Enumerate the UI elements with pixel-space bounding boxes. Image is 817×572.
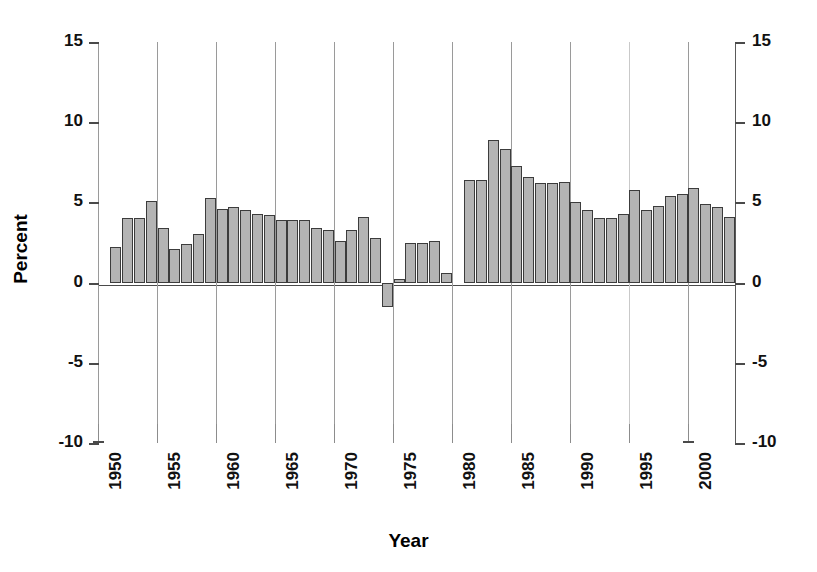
- y-tick-left--5: [89, 363, 99, 365]
- bar: [158, 228, 169, 283]
- bar: [594, 218, 605, 282]
- x-tick-label-1975: 1975: [401, 452, 421, 490]
- x-tick-label-1955: 1955: [165, 452, 185, 490]
- y-axis-right-line: [735, 42, 736, 443]
- bar: [146, 201, 157, 283]
- bar: [217, 209, 228, 283]
- bar: [535, 183, 546, 282]
- bar: [665, 196, 676, 283]
- y-tick-left--10: [89, 443, 99, 445]
- bar: [299, 220, 310, 283]
- bar: [358, 217, 369, 283]
- x-axis-title: Year: [0, 530, 817, 552]
- bar: [653, 206, 664, 283]
- bar: [511, 166, 522, 283]
- x-tick-1995: [629, 424, 630, 443]
- bar: [405, 243, 416, 283]
- bar: [559, 182, 570, 283]
- y-tick-right-5: [735, 202, 745, 204]
- bar: [370, 238, 381, 283]
- y-tick-label-right-10: 10: [752, 111, 812, 131]
- x-tick-label-1970: 1970: [342, 452, 362, 490]
- x-tick-label-1995: 1995: [637, 452, 657, 490]
- bar: [429, 241, 440, 283]
- bar: [287, 220, 298, 283]
- bar: [346, 230, 357, 283]
- bar: [688, 188, 699, 283]
- x-tick-label-2000: 2000: [696, 452, 716, 490]
- y-tick-label-left--5: -5: [0, 352, 83, 372]
- bar: [264, 215, 275, 282]
- bar: [394, 279, 405, 282]
- x-tick-1990: [570, 424, 571, 443]
- x-tick-1975: [393, 424, 394, 443]
- x-tick-cap-2000: [683, 441, 694, 443]
- y-tick-label-left--10: -10: [0, 432, 83, 452]
- y-tick-right-10: [735, 122, 745, 124]
- bar: [323, 230, 334, 283]
- y-tick-right--10: [735, 443, 745, 445]
- bar: [488, 140, 499, 283]
- bar: [240, 210, 251, 282]
- plot-area: [98, 42, 735, 443]
- x-tick-label-1980: 1980: [460, 452, 480, 490]
- x-tick-1955: [157, 424, 158, 443]
- gridline-1950: [98, 42, 99, 443]
- chart-figure: Percent 151050-5-10 151050-5-10 19501955…: [0, 0, 817, 572]
- bar: [500, 149, 511, 282]
- bar: [417, 243, 428, 283]
- y-tick-label-left-10: 10: [0, 111, 83, 131]
- y-tick-left-10: [89, 122, 99, 124]
- bar: [464, 180, 475, 283]
- bar: [252, 214, 263, 283]
- gridline-1980: [452, 42, 453, 443]
- y-tick-right-15: [735, 42, 745, 44]
- x-tick-label-1985: 1985: [519, 452, 539, 490]
- y-tick-label-right--5: -5: [752, 352, 812, 372]
- x-tick-label-1965: 1965: [283, 452, 303, 490]
- y-tick-label-left-15: 15: [0, 31, 83, 51]
- x-tick-label-1950: 1950: [106, 452, 126, 490]
- y-tick-label-right-0: 0: [752, 272, 812, 292]
- y-tick-left-15: [89, 42, 99, 44]
- y-tick-label-left-5: 5: [0, 191, 83, 211]
- x-tick-1980: [452, 424, 453, 443]
- y-tick-left-5: [89, 202, 99, 204]
- y-tick-label-left-0: 0: [0, 272, 83, 292]
- x-tick-cap-1950: [93, 441, 104, 443]
- bar: [335, 241, 346, 283]
- bar: [228, 207, 239, 282]
- bar: [712, 207, 723, 282]
- bar: [441, 273, 452, 283]
- y-tick-label-right-15: 15: [752, 31, 812, 51]
- bar: [205, 198, 216, 283]
- y-tick-left-0: [89, 283, 99, 285]
- x-tick-1965: [275, 424, 276, 443]
- bar: [476, 180, 487, 283]
- y-tick-right-0: [735, 283, 745, 285]
- bar: [134, 218, 145, 282]
- bar: [629, 190, 640, 283]
- bar: [618, 214, 629, 283]
- y-tick-right--5: [735, 363, 745, 365]
- bar: [547, 183, 558, 282]
- bar: [276, 220, 287, 283]
- zero-baseline: [98, 285, 735, 286]
- gridline-1975: [393, 42, 394, 443]
- bar: [641, 210, 652, 282]
- y-tick-label-right--10: -10: [752, 432, 812, 452]
- bar: [570, 202, 581, 282]
- bar: [169, 249, 180, 283]
- x-tick-label-1990: 1990: [578, 452, 598, 490]
- bar: [523, 177, 534, 283]
- bar: [606, 218, 617, 282]
- bar: [193, 234, 204, 282]
- x-tick-1985: [511, 424, 512, 443]
- x-tick-1960: [216, 424, 217, 443]
- bar: [582, 210, 593, 282]
- bar: [382, 283, 393, 307]
- x-tick-label-1960: 1960: [224, 452, 244, 490]
- bar: [677, 194, 688, 282]
- bar: [181, 244, 192, 282]
- x-tick-1970: [334, 424, 335, 443]
